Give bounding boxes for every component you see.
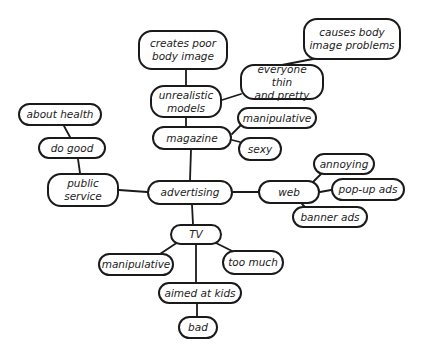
node-creates-poor-body-image: creates poor body image <box>138 30 228 70</box>
node-tv: TV <box>170 224 222 245</box>
node-pop-up-ads: pop-up ads <box>331 178 405 201</box>
node-advertising: advertising <box>147 180 233 205</box>
edge-public-service-to-do-good <box>78 159 80 173</box>
edge-advertising-to-magazine <box>190 150 191 180</box>
node-sexy: sexy <box>238 137 282 161</box>
node-magazine: magazine <box>152 126 232 150</box>
node-web: web <box>258 180 320 204</box>
mind-map-canvas: advertisingmagazineunrealistic modelscre… <box>0 0 428 358</box>
node-too-much: too much <box>222 250 284 275</box>
node-causes-body-image-problems: causes body image problems <box>303 18 401 60</box>
edge-web-to-pop-up-ads <box>320 190 331 192</box>
edge-unrealistic-models-to-everyone-thin-and-pretty <box>222 94 241 100</box>
node-public-service: public service <box>47 173 119 207</box>
node-bad: bad <box>178 316 218 339</box>
node-do-good: do good <box>38 137 106 159</box>
node-unrealistic-models: unrealistic models <box>150 85 222 118</box>
node-banner-ads: banner ads <box>292 206 368 228</box>
edge-advertising-to-public-service <box>119 190 147 192</box>
node-everyone-thin-and-pretty: everyone thin and pretty <box>240 64 324 100</box>
node-manipulative-tv: manipulative <box>98 253 174 276</box>
node-aimed-at-kids: aimed at kids <box>158 282 242 304</box>
node-annoying: annoying <box>313 153 375 175</box>
node-manipulative-mag: manipulative <box>237 107 317 129</box>
edge-do-good-to-about-health <box>64 126 70 137</box>
edge-advertising-to-tv <box>192 205 193 224</box>
node-about-health: about health <box>18 103 102 126</box>
